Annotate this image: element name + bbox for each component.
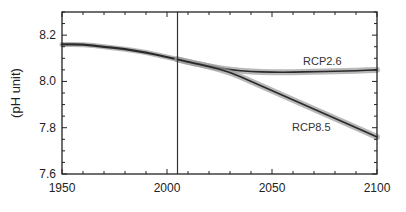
series-label-rcp85: RCP8.5 (292, 121, 331, 133)
x-tick-label: 1950 (49, 181, 76, 195)
y-axis-label: (pH unit) (8, 68, 23, 118)
axes: 19502000205021007.67.88.08.2 (39, 12, 390, 195)
plot-frame (62, 12, 377, 174)
y-tick-label: 8.2 (39, 28, 56, 42)
y-tick-label: 7.6 (39, 167, 56, 181)
x-tick-label: 2100 (364, 181, 391, 195)
ph-chart: 19502000205021007.67.88.08.2 (pH unit) R… (0, 0, 406, 212)
y-tick-label: 7.8 (39, 121, 56, 135)
series-label-rcp26: RCP2.6 (303, 55, 342, 67)
x-tick-label: 2050 (259, 181, 286, 195)
y-tick-label: 8.0 (39, 74, 56, 88)
x-tick-label: 2000 (154, 181, 181, 195)
series-band-historical (62, 44, 178, 59)
